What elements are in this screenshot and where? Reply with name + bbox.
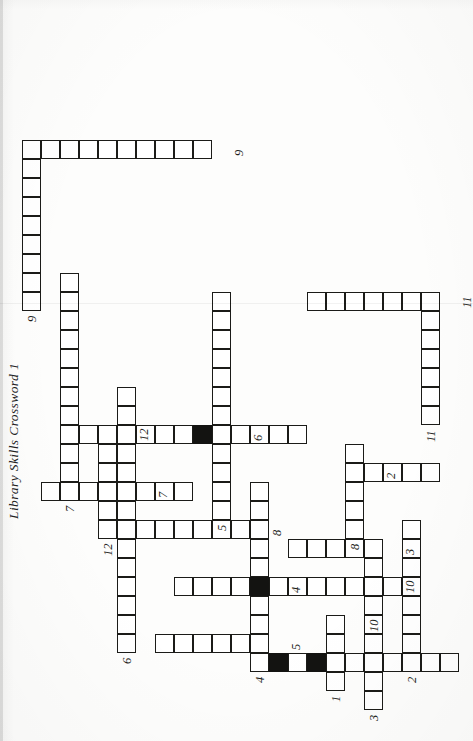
grid-cell[interactable] [193, 520, 212, 539]
grid-cell[interactable] [231, 425, 250, 444]
grid-cell[interactable] [193, 577, 212, 596]
grid-cell[interactable] [345, 463, 364, 482]
grid-cell[interactable] [269, 425, 288, 444]
grid-cell[interactable] [22, 140, 41, 159]
grid-cell[interactable] [22, 178, 41, 197]
grid-cell[interactable] [364, 577, 383, 596]
grid-cell[interactable] [212, 501, 231, 520]
grid-cell[interactable] [136, 482, 155, 501]
grid-cell[interactable] [79, 482, 98, 501]
grid-cell[interactable] [117, 634, 136, 653]
grid-cell[interactable] [402, 558, 421, 577]
grid-cell[interactable] [288, 539, 307, 558]
grid-cell[interactable] [421, 368, 440, 387]
grid-cell[interactable] [212, 387, 231, 406]
grid-cell[interactable] [117, 140, 136, 159]
grid-cell[interactable] [402, 634, 421, 653]
grid-cell[interactable] [174, 140, 193, 159]
grid-cell[interactable] [402, 596, 421, 615]
grid-cell[interactable] [345, 577, 364, 596]
grid-cell[interactable] [212, 463, 231, 482]
grid-cell[interactable] [326, 653, 345, 672]
grid-cell[interactable] [60, 425, 79, 444]
grid-cell[interactable] [326, 672, 345, 691]
grid-cell[interactable] [79, 425, 98, 444]
grid-cell[interactable] [250, 501, 269, 520]
grid-cell[interactable] [421, 387, 440, 406]
grid-cell[interactable] [250, 539, 269, 558]
grid-cell[interactable] [421, 311, 440, 330]
grid-cell[interactable] [60, 406, 79, 425]
grid-cell[interactable] [174, 482, 193, 501]
grid-cell[interactable] [440, 653, 459, 672]
grid-cell[interactable] [250, 634, 269, 653]
grid-cell[interactable] [421, 653, 440, 672]
grid-cell[interactable] [402, 463, 421, 482]
grid-cell[interactable] [60, 387, 79, 406]
grid-cell[interactable] [212, 425, 231, 444]
grid-cell[interactable] [383, 577, 402, 596]
grid-cell[interactable] [345, 292, 364, 311]
grid-cell[interactable] [307, 539, 326, 558]
grid-cell[interactable] [250, 520, 269, 539]
grid-cell[interactable] [117, 558, 136, 577]
grid-cell[interactable] [402, 653, 421, 672]
grid-cell[interactable] [421, 292, 440, 311]
grid-cell[interactable] [364, 672, 383, 691]
grid-cell[interactable] [364, 691, 383, 710]
grid-cell[interactable] [174, 634, 193, 653]
grid-cell[interactable] [345, 444, 364, 463]
grid-cell[interactable] [60, 292, 79, 311]
grid-cell[interactable] [345, 501, 364, 520]
grid-cell[interactable] [383, 653, 402, 672]
grid-cell[interactable] [212, 311, 231, 330]
grid-cell[interactable] [307, 577, 326, 596]
grid-cell[interactable] [307, 292, 326, 311]
grid-cell[interactable] [345, 520, 364, 539]
grid-cell[interactable] [383, 292, 402, 311]
grid-cell[interactable] [117, 520, 136, 539]
grid-cell[interactable] [98, 501, 117, 520]
grid-cell[interactable] [212, 482, 231, 501]
grid-cell[interactable] [212, 444, 231, 463]
grid-cell[interactable] [98, 482, 117, 501]
grid-cell[interactable] [212, 349, 231, 368]
grid-cell[interactable] [117, 482, 136, 501]
grid-cell[interactable] [60, 463, 79, 482]
grid-cell[interactable] [60, 349, 79, 368]
grid-cell[interactable] [364, 463, 383, 482]
grid-cell[interactable] [250, 596, 269, 615]
grid-cell[interactable] [326, 615, 345, 634]
grid-cell[interactable] [421, 349, 440, 368]
grid-cell[interactable] [212, 368, 231, 387]
grid-cell[interactable] [22, 216, 41, 235]
grid-cell[interactable] [231, 634, 250, 653]
grid-cell[interactable] [231, 520, 250, 539]
grid-cell[interactable] [421, 406, 440, 425]
grid-cell[interactable] [364, 539, 383, 558]
grid-cell[interactable] [402, 520, 421, 539]
grid-cell[interactable] [269, 577, 288, 596]
grid-cell[interactable] [98, 463, 117, 482]
grid-cell[interactable] [60, 140, 79, 159]
grid-cell[interactable] [402, 292, 421, 311]
grid-cell[interactable] [60, 273, 79, 292]
grid-cell[interactable] [288, 425, 307, 444]
grid-cell[interactable] [117, 596, 136, 615]
grid-cell[interactable] [22, 254, 41, 273]
grid-cell[interactable] [98, 520, 117, 539]
grid-cell[interactable] [60, 482, 79, 501]
grid-cell[interactable] [345, 653, 364, 672]
grid-cell[interactable] [98, 425, 117, 444]
grid-cell[interactable] [117, 425, 136, 444]
grid-cell[interactable] [364, 596, 383, 615]
grid-cell[interactable] [117, 577, 136, 596]
grid-cell[interactable] [60, 444, 79, 463]
grid-cell[interactable] [155, 140, 174, 159]
grid-cell[interactable] [60, 368, 79, 387]
grid-cell[interactable] [212, 406, 231, 425]
grid-cell[interactable] [174, 577, 193, 596]
grid-cell[interactable] [60, 330, 79, 349]
grid-cell[interactable] [98, 444, 117, 463]
grid-cell[interactable] [250, 558, 269, 577]
